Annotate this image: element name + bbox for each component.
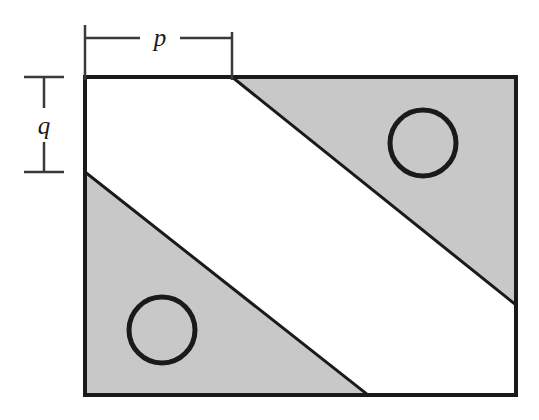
figure-container: p q: [0, 0, 539, 420]
p-dimension-label: p: [152, 24, 167, 51]
q-dimension-label: q: [38, 112, 51, 139]
geometric-figure: p q: [0, 0, 539, 420]
